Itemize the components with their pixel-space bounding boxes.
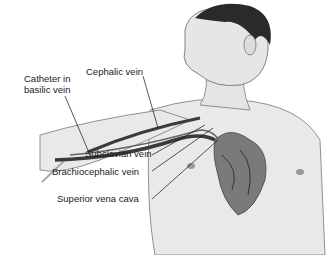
label-catheter-line2: basilic vein (24, 84, 70, 95)
label-subclavian-vein: Subclavian vein (85, 148, 152, 159)
label-cephalic-vein: Cephalic vein (86, 66, 143, 77)
label-catheter: Catheter in basilic vein (24, 73, 70, 95)
label-catheter-line1: Catheter in (24, 73, 70, 84)
label-brachiocephalic-vein: Brachiocephalic vein (52, 166, 139, 177)
anatomy-illustration (0, 0, 335, 255)
label-superior-vena-cava: Superior vena cava (57, 193, 139, 204)
ear (244, 35, 256, 55)
